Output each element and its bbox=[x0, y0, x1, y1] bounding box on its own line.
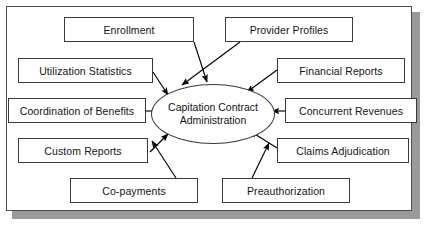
node-enrollment[interactable]: Enrollment bbox=[64, 17, 194, 42]
node-label-co-payments: Co-payments bbox=[102, 185, 166, 197]
node-custom-reports[interactable]: Custom Reports bbox=[18, 138, 148, 163]
node-claims-adjudication[interactable]: Claims Adjudication bbox=[277, 138, 409, 163]
node-label-concurrent-revenues: Concurrent Revenues bbox=[299, 105, 403, 117]
node-label-provider-profiles: Provider Profiles bbox=[250, 24, 329, 36]
node-coordination-of-benefits[interactable]: Coordination of Benefits bbox=[8, 98, 146, 123]
hub-label-line-2: Administration bbox=[180, 114, 247, 127]
node-co-payments[interactable]: Co-payments bbox=[70, 178, 198, 203]
node-label-claims-adjudication: Claims Adjudication bbox=[296, 145, 390, 157]
hub-node-capitation-contract-administration[interactable]: Capitation Contract Administration bbox=[151, 84, 275, 144]
node-label-financial-reports: Financial Reports bbox=[299, 65, 382, 77]
node-label-utilization-statistics: Utilization Statistics bbox=[39, 65, 132, 77]
node-utilization-statistics[interactable]: Utilization Statistics bbox=[18, 58, 153, 83]
node-label-coordination-of-benefits: Coordination of Benefits bbox=[20, 105, 134, 117]
hub-label-line-1: Capitation Contract bbox=[168, 101, 258, 114]
node-preauthorization[interactable]: Preauthorization bbox=[222, 178, 350, 203]
node-label-enrollment: Enrollment bbox=[103, 24, 154, 36]
node-provider-profiles[interactable]: Provider Profiles bbox=[225, 17, 353, 42]
node-concurrent-revenues[interactable]: Concurrent Revenues bbox=[285, 98, 417, 123]
node-label-preauthorization: Preauthorization bbox=[247, 185, 325, 197]
node-label-custom-reports: Custom Reports bbox=[44, 145, 121, 157]
node-financial-reports[interactable]: Financial Reports bbox=[277, 58, 405, 83]
diagram-canvas: Enrollment Provider Profiles Utilization… bbox=[0, 0, 426, 229]
